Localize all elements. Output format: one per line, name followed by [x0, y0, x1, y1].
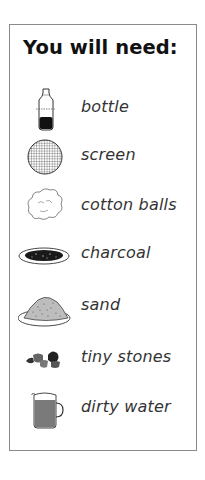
- bottle-icon: [18, 87, 76, 133]
- dirty-water-icon: [18, 387, 76, 433]
- cotton-balls-icon: [18, 185, 76, 231]
- list-item-sand: sand: [10, 285, 196, 331]
- item-label: bottle: [81, 97, 129, 116]
- materials-list-box: You will need: bottle screen: [9, 24, 197, 451]
- sand-icon: [18, 285, 76, 331]
- list-item-bottle: bottle: [10, 87, 196, 133]
- tiny-stones-icon: [18, 337, 76, 383]
- list-title: You will need:: [23, 36, 193, 59]
- list-item-charcoal: charcoal: [10, 233, 196, 279]
- item-label: sand: [81, 295, 120, 314]
- list-item-dirty-water: dirty water: [10, 387, 196, 433]
- item-label: charcoal: [81, 243, 151, 262]
- item-label: tiny stones: [81, 347, 171, 366]
- item-label: cotton balls: [81, 195, 177, 214]
- list-item-tiny-stones: tiny stones: [10, 337, 196, 383]
- list-item-cotton-balls: cotton balls: [10, 185, 196, 231]
- item-label: dirty water: [81, 397, 171, 416]
- item-label: screen: [81, 145, 136, 164]
- list-item-screen: screen: [10, 135, 196, 181]
- screen-icon: [18, 135, 76, 181]
- charcoal-icon: [18, 233, 76, 279]
